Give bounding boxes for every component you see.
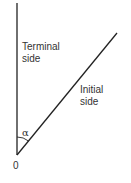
initial-label-line1: Initial <box>80 84 103 96</box>
angle-alpha-label: α <box>22 127 29 139</box>
initial-label-line2: side <box>80 96 103 108</box>
angle-diagram <box>0 0 131 183</box>
terminal-side-label: Terminal side <box>22 41 60 65</box>
terminal-label-line2: side <box>22 53 60 65</box>
initial-side-label: Initial side <box>80 84 103 108</box>
origin-label: 0 <box>13 160 19 172</box>
terminal-label-line1: Terminal <box>22 41 60 53</box>
